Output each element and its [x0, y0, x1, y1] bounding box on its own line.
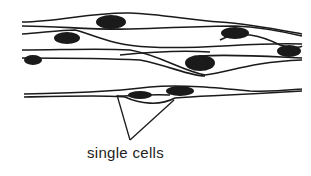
- nucleus: [166, 86, 194, 96]
- nucleus: [96, 15, 126, 29]
- nucleus: [277, 45, 301, 57]
- nucleus: [185, 55, 215, 71]
- single-cells-label: single cells: [87, 144, 164, 161]
- nucleus: [128, 91, 152, 99]
- nucleus: [54, 32, 80, 44]
- nucleus: [24, 55, 42, 65]
- lower-cell-pair: [24, 86, 302, 103]
- upper-cell-sheet: [22, 13, 302, 76]
- nucleus: [221, 27, 249, 39]
- nuclei-upper: [24, 15, 301, 71]
